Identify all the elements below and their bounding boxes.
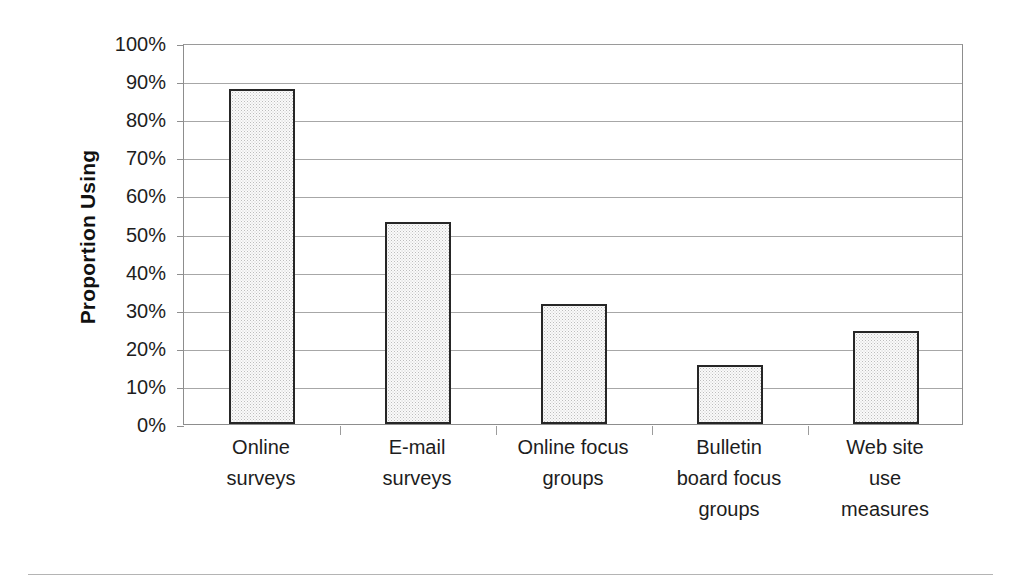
y-axis-tick-label: 30%	[126, 301, 166, 321]
bar	[853, 331, 919, 424]
page-divider-rule	[28, 574, 993, 575]
y-axis-tick-mark	[177, 426, 184, 427]
y-axis-tick-label: 90%	[126, 72, 166, 92]
x-axis-label-line: surveys	[183, 463, 339, 494]
y-axis-tick-mark	[177, 159, 184, 160]
bars-group	[184, 45, 962, 424]
y-axis-tick-label: 40%	[126, 263, 166, 283]
y-axis-tick-mark	[177, 274, 184, 275]
x-axis-label: Web siteusemeasures	[807, 432, 963, 525]
x-axis-label-line: use	[807, 463, 963, 494]
x-axis-category-labels: OnlinesurveysE-mailsurveysOnline focusgr…	[183, 432, 963, 542]
y-axis-tick-label: 50%	[126, 225, 166, 245]
x-axis-label-line: groups	[651, 494, 807, 525]
y-axis-tick-label: 70%	[126, 148, 166, 168]
x-axis-label: Onlinesurveys	[183, 432, 339, 494]
x-axis-label-line: Online	[183, 432, 339, 463]
y-axis-tick-label: 100%	[115, 34, 166, 54]
y-axis-tick-mark	[177, 388, 184, 389]
x-axis-label: Online focusgroups	[495, 432, 651, 494]
x-axis-label-line: E-mail	[339, 432, 495, 463]
x-axis-label: Bulletinboard focusgroups	[651, 432, 807, 525]
y-axis-tick-mark	[177, 121, 184, 122]
x-axis-label-line: Bulletin	[651, 432, 807, 463]
y-axis-tick-mark	[177, 83, 184, 84]
bar	[697, 365, 763, 424]
y-axis-tick-label: 10%	[126, 377, 166, 397]
y-axis-tick-labels: 100%90%80%70%60%50%40%30%20%10%0%	[76, 44, 174, 425]
bar-chart-figure: Proportion Using 100%90%80%70%60%50%40%3…	[0, 0, 1021, 588]
y-axis-tick-mark	[177, 197, 184, 198]
y-axis-tick-label: 0%	[137, 415, 166, 435]
x-axis-label: E-mailsurveys	[339, 432, 495, 494]
y-axis-tick-mark	[177, 350, 184, 351]
y-axis-tick-mark	[177, 312, 184, 313]
bar	[541, 304, 607, 424]
bar	[385, 222, 451, 424]
y-axis-tick-label: 60%	[126, 186, 166, 206]
y-axis-tick-label: 80%	[126, 110, 166, 130]
plot-area	[183, 44, 963, 425]
x-axis-label-line: groups	[495, 463, 651, 494]
y-axis-tick-label: 20%	[126, 339, 166, 359]
x-axis-label-line: measures	[807, 494, 963, 525]
x-axis-label-line: Web site	[807, 432, 963, 463]
x-axis-label-line: board focus	[651, 463, 807, 494]
y-axis-tick-mark	[177, 236, 184, 237]
x-axis-label-line: surveys	[339, 463, 495, 494]
y-axis-tick-mark	[177, 45, 184, 46]
x-axis-label-line: Online focus	[495, 432, 651, 463]
bar	[229, 89, 295, 424]
